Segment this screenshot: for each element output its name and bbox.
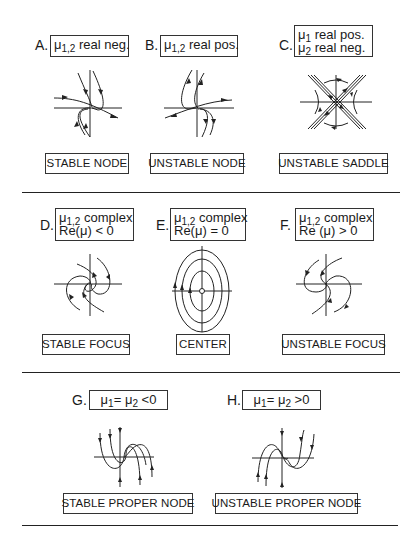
panel-letter: B. [145,38,158,52]
panel-letter: A. [35,38,48,52]
mu-symbol: μ [54,37,62,52]
panel-caption: STABLE PROPER NODE [63,493,193,514]
eigenvalue-condition: μ1,2 complex Re(μ) = 0 [170,208,246,241]
condition-text: real neg. [75,37,129,52]
condition-line-2: μ2 real neg. [298,41,369,54]
stable-node-icon [50,65,130,140]
panel-letter: G. [72,393,87,407]
condition-text: <0 [138,392,156,407]
eigenvalue-condition: μ1= μ2 >0 [242,390,321,410]
saddle-icon [298,73,374,131]
panel-caption: CENTER [176,334,230,355]
panel-letter: F. [280,218,291,232]
unstable-node-icon [162,65,242,140]
eigenvalue-condition: μ1,2 real neg. [50,35,129,57]
eigenvalue-condition: μ1,2 complex Re(μ) < 0 [55,208,134,241]
mu-symbol: μ [164,37,172,52]
panel-letter: C. [279,38,293,52]
panel-letter: D. [40,218,54,232]
eigenvalue-condition: μ1= μ2 <0 [89,390,168,410]
unstable-proper-node-icon [252,428,322,490]
condition-text: >0 [291,392,309,407]
section-divider [22,372,400,373]
stable-proper-node-icon [92,425,162,487]
eigenvalue-condition: μ1,2 complex Re (μ) > 0 [295,208,374,241]
section-divider [22,192,400,193]
equals-sign: = [267,392,278,407]
section-divider [22,525,398,526]
subscript: 1,2 [172,43,186,54]
panel-letter: E. [156,218,169,232]
eigenvalue-condition: μ1,2 real pos. [160,35,238,57]
panel-caption: STABLE NODE [45,153,129,174]
stable-focus-icon [52,252,124,318]
center-icon [170,244,234,334]
unstable-focus-icon [294,252,364,318]
condition-text: real neg. [311,40,365,55]
panel-caption: UNSTABLE NODE [150,153,244,174]
condition-line-2: Re(μ) = 0 [174,224,242,237]
panel-caption: UNSTABLE PROPER NODE [215,493,358,514]
eigenvalue-condition: μ1 real pos. μ2 real neg. [294,25,373,57]
panel-caption: UNSTABLE FOCUS [282,334,385,355]
condition-line-2: Re(μ) < 0 [59,224,130,237]
panel-caption: UNSTABLE SADDLE [279,153,388,174]
panel-caption: STABLE FOCUS [42,334,130,355]
mu-symbol: μ [298,40,306,55]
mu-symbol: μ [101,392,109,407]
equals-sign: = [114,392,125,407]
condition-text: real pos. [185,37,238,52]
subscript: 1,2 [62,43,76,54]
panel-letter: H. [227,393,241,407]
mu-symbol: μ [254,392,262,407]
condition-line-2: Re (μ) > 0 [299,224,370,237]
